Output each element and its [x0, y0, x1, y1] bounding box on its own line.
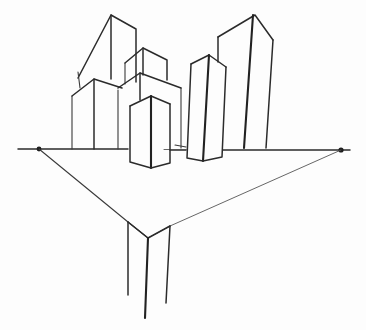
left-low-block: [72, 79, 122, 149]
below-horizon-column: [128, 222, 170, 318]
tall-right-tower: [218, 15, 273, 148]
perspective-drawing: Two-point perspective city sketch: [0, 0, 366, 330]
right-mid-tower: [187, 55, 226, 161]
ground-perspective-triangle: [39, 149, 341, 238]
tall-left-tower: [78, 15, 136, 88]
front-center-block: [130, 96, 170, 168]
sketch-canvas: [0, 0, 366, 330]
horizon-line: [18, 149, 350, 150]
